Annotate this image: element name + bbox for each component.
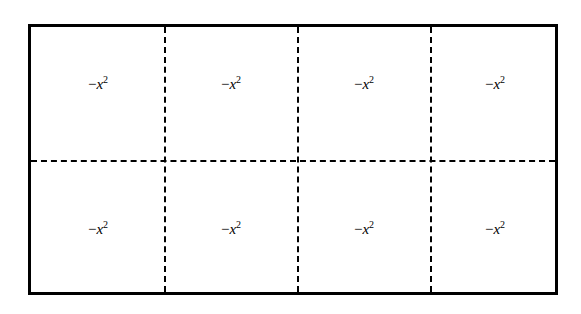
cell-label-r1c3: −x2 — [354, 76, 374, 93]
cell-label-r1c4: −x2 — [485, 76, 505, 93]
cell-label-r1c1: −x2 — [88, 76, 108, 93]
grid-frame: −x2 −x2 −x2 −x2 −x2 −x2 −x2 −x2 — [28, 24, 558, 295]
horizontal-divider — [31, 160, 555, 162]
cell-label-r2c3: −x2 — [354, 221, 374, 238]
cell-label-r2c2: −x2 — [221, 221, 241, 238]
cell-label-r1c2: −x2 — [221, 76, 241, 93]
cell-label-r2c4: −x2 — [485, 221, 505, 238]
cell-label-r2c1: −x2 — [88, 221, 108, 238]
